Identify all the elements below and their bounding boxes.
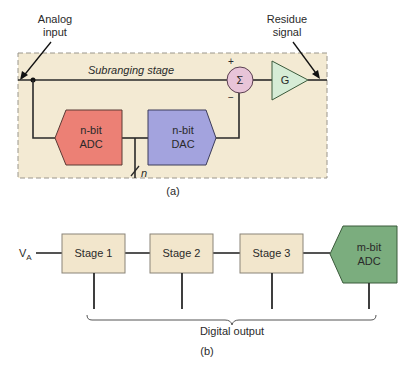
analog-input-label-2: input bbox=[43, 26, 67, 38]
figure-b: VA Stage 1 Stage 2 Stage 3 m-bit ADC Dig… bbox=[19, 226, 397, 357]
caption-a: (a) bbox=[166, 185, 179, 197]
caption-b: (b) bbox=[200, 345, 213, 357]
m-bit-adc-line1: m-bit bbox=[357, 241, 381, 253]
stage-2-label: Stage 2 bbox=[163, 247, 201, 259]
adc-label-line2: ADC bbox=[79, 138, 102, 150]
plus-sign: + bbox=[228, 56, 234, 67]
sigma-symbol: Σ bbox=[237, 74, 244, 86]
dac-label-line1: n-bit bbox=[172, 124, 193, 136]
stage-1-label: Stage 1 bbox=[75, 247, 113, 259]
dac-label-line2: DAC bbox=[171, 138, 194, 150]
minus-sign: − bbox=[228, 92, 234, 103]
adc-label-line1: n-bit bbox=[80, 124, 101, 136]
digital-output-label: Digital output bbox=[200, 325, 264, 337]
figure-a: n n-bit ADC n-bit DAC Σ + − G Analog inp… bbox=[18, 13, 327, 197]
stage-3-label: Stage 3 bbox=[253, 247, 291, 259]
subranging-adc-diagram: n n-bit ADC n-bit DAC Σ + − G Analog inp… bbox=[0, 0, 419, 374]
gain-label: G bbox=[281, 74, 290, 86]
residue-label-1: Residue bbox=[267, 13, 307, 25]
analog-input-label-1: Analog bbox=[38, 13, 72, 25]
bus-width-label: n bbox=[141, 167, 147, 179]
m-bit-adc-line2: ADC bbox=[357, 255, 380, 267]
digital-output-brace bbox=[87, 315, 376, 325]
residue-label-2: signal bbox=[273, 26, 302, 38]
va-label: VA bbox=[19, 247, 32, 262]
subranging-stage-title: Subranging stage bbox=[88, 64, 174, 76]
